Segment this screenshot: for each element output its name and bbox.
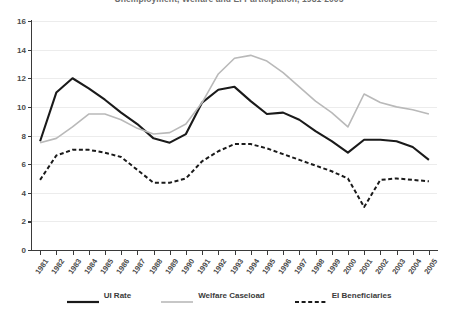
legend-item-welfare-caseload[interactable]: Welfare Caseload [161,291,265,300]
series-line-ei-beneficiaries [40,144,429,207]
legend-item-ei-beneficiaries[interactable]: EI Beneficiaries [295,291,392,300]
series-line-ui-rate [40,78,429,160]
data-series-layer [0,0,458,310]
legend-label: Welfare Caseload [198,291,265,300]
legend-label: UI Rate [104,291,132,300]
chart-container: Unemployment, Welfare and EI Participati… [0,0,458,310]
series-line-welfare-caseload [40,55,429,142]
legend-swatch-icon [161,292,193,300]
chart-legend: UI RateWelfare CaseloadEI Beneficiaries [0,291,458,300]
legend-swatch-icon [67,292,99,300]
legend-swatch-icon [295,292,327,300]
legend-label: EI Beneficiaries [332,291,392,300]
legend-item-ui-rate[interactable]: UI Rate [67,291,132,300]
